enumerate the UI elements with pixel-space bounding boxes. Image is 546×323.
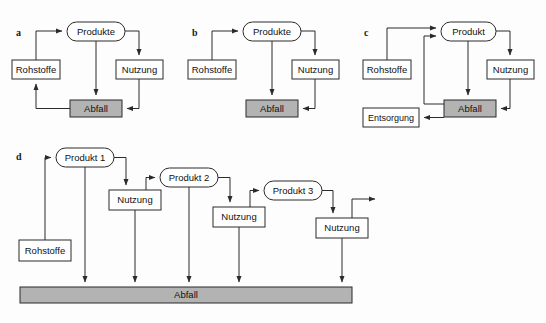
node-c-entsorgung-label: Entsorgung: [368, 113, 414, 123]
diagram-svg: a Produkte Rohstoffe Nutzung Abfall b: [0, 0, 546, 323]
edge-c-abfall-to-produkt-recycling: [424, 36, 444, 104]
edge-d-produkt-2-to-nutzung-2: [218, 178, 230, 203]
node-b-rohstoffe-label: Rohstoffe: [192, 64, 233, 75]
panel-b: b Produkte Rohstoffe Nutzung Abfall: [188, 22, 339, 117]
node-b-nutzung-label: Nutzung: [298, 64, 333, 75]
edge-d-produkt-3-to-nutzung-3: [322, 191, 333, 214]
node-a-nutzung-label: Nutzung: [122, 64, 157, 75]
edge-a-produkte-to-nutzung: [125, 31, 139, 55]
edge-c-produkt-to-nutzung: [496, 31, 510, 55]
edge-c-rohstoffe-to-produkt: [387, 28, 436, 60]
node-b-abfall-label: Abfall: [260, 103, 284, 114]
edge-d-rohstoffe-to-produkt-1: [45, 158, 51, 241]
node-a-produkte-label: Produkte: [77, 26, 115, 37]
edge-a-abfall-to-rohstoffe: [36, 84, 70, 109]
figure-canvas: a Produkte Rohstoffe Nutzung Abfall b: [0, 0, 546, 323]
node-a-rohstoffe-label: Rohstoffe: [16, 64, 57, 75]
edge-d-nutzung-3-to-export: [352, 199, 375, 218]
edge-d-nutzung-1-to-produkt-2: [146, 178, 155, 191]
node-c-produkt-label: Produkt: [452, 26, 485, 37]
edge-b-produkte-to-nutzung: [301, 31, 315, 55]
node-a-abfall-label: Abfall: [84, 103, 108, 114]
edge-d-nutzung-2-to-produkt-3: [250, 191, 259, 208]
node-c-rohstoffe-label: Rohstoffe: [367, 64, 408, 75]
panel-a-label: a: [16, 27, 21, 38]
node-d-abfall-bar-label: Abfall: [174, 289, 198, 300]
node-d-produkt-3-label: Produkt 3: [273, 185, 314, 196]
edge-b-nutzung-to-abfall: [303, 79, 315, 109]
node-c-abfall-label: Abfall: [458, 103, 482, 114]
node-d-produkt-2-label: Produkt 2: [169, 172, 210, 183]
edge-a-rohstoffe-to-produkte: [36, 31, 62, 60]
panel-d-label: d: [16, 151, 22, 162]
edge-c-nutzung-to-abfall: [501, 79, 510, 109]
panel-c: c Produkt Rohstoffe Nutzung Abfall Entso…: [363, 22, 534, 127]
node-b-produkte-label: Produkte: [253, 26, 291, 37]
node-d-nutzung-1-label: Nutzung: [117, 194, 152, 205]
edge-b-rohstoffe-to-produkte: [212, 31, 238, 60]
panel-b-label: b: [192, 27, 198, 38]
node-d-rohstoffe-label: Rohstoffe: [25, 245, 66, 256]
node-d-nutzung-2-label: Nutzung: [221, 211, 256, 222]
edge-a-nutzung-to-abfall: [127, 79, 139, 109]
panel-d: d Produkt 1 Nutzung Produkt 2 Nutzung: [16, 148, 375, 303]
node-d-produkt-1-label: Produkt 1: [65, 152, 106, 163]
panel-a: a Produkte Rohstoffe Nutzung Abfall: [12, 22, 163, 117]
edge-d-produkt-1-to-nutzung-1: [114, 158, 126, 186]
node-c-nutzung-label: Nutzung: [493, 64, 528, 75]
node-d-nutzung-3-label: Nutzung: [324, 222, 359, 233]
panel-c-label: c: [364, 27, 369, 38]
